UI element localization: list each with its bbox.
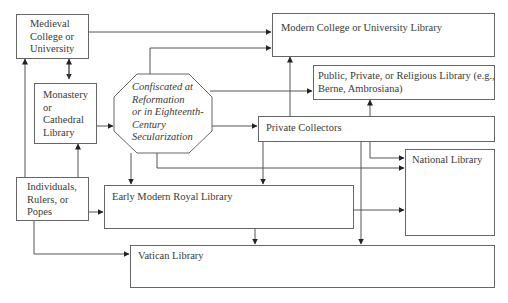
node-early-modern-royal-library: Early Modern Royal Library <box>104 185 354 229</box>
node-public-private-religious-library: Public, Private, or Religious Library (e… <box>313 65 495 100</box>
node-label: National Library <box>412 154 494 167</box>
node-individuals: Individuals, Rulers, or Popes <box>16 177 89 221</box>
node-label-line: Rulers, or <box>27 194 88 207</box>
node-confiscated: Confiscated at Reformation or in Eightee… <box>132 81 204 144</box>
node-label: Early Modern Royal Library <box>112 191 353 204</box>
node-monastery-library: Monastery or Cathedral Library <box>34 83 97 144</box>
node-label-line: College or <box>30 31 88 44</box>
node-label-line: Library <box>43 127 96 140</box>
node-label-line: or <box>43 102 96 115</box>
library-provenance-diagram: Medieval College or University Monastery… <box>0 0 508 303</box>
node-label-line: Individuals, <box>27 181 88 194</box>
node-label-line: Reformation <box>132 94 204 107</box>
node-label-line: Monastery <box>43 89 96 102</box>
node-private-collectors: Private Collectors <box>258 116 495 142</box>
node-modern-college-library: Modern College or University Library <box>272 13 495 57</box>
node-label-line: Berne, Ambrosiana) <box>318 83 494 96</box>
node-label-line: or in Eighteenth- <box>132 106 204 119</box>
node-label-line: Secularization <box>132 131 204 144</box>
node-medieval-college: Medieval College or University <box>16 14 89 59</box>
node-label-line: Cathedral <box>43 114 96 127</box>
node-label-line: Century <box>132 119 204 132</box>
node-label: Private Collectors <box>266 122 494 135</box>
node-vatican-library: Vatican Library <box>130 245 495 288</box>
node-label-line: University <box>30 43 88 56</box>
node-label-line: Confiscated at <box>132 81 204 94</box>
node-label: Vatican Library <box>138 250 494 263</box>
node-label: Modern College or University Library <box>281 22 494 35</box>
node-national-library: National Library <box>405 149 495 236</box>
node-label-line: Medieval <box>30 18 88 31</box>
node-label-line: Popes <box>27 206 88 219</box>
node-label-line: Public, Private, or Religious Library (e… <box>318 70 494 83</box>
